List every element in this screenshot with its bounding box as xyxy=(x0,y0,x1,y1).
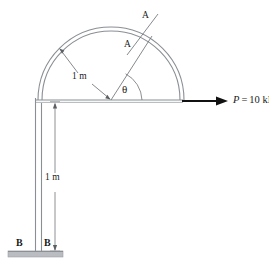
force-value: 10 kN xyxy=(249,94,269,105)
section-label-a-upper: A xyxy=(142,11,149,21)
arch-diagram: A A 1 m θ 1 m B B P=10 kN xyxy=(0,0,269,269)
force-label: P=10 kN xyxy=(233,95,269,106)
base-support-plate xyxy=(8,251,63,257)
column-dim-arrowhead-top xyxy=(53,103,57,109)
force-equals: = xyxy=(241,94,247,105)
arch-inner-edge xyxy=(42,31,180,100)
theta-angle-label: θ xyxy=(122,84,127,95)
support-label-b-right: B xyxy=(44,238,51,248)
diagram-canvas xyxy=(0,0,269,269)
column-dim-arrowhead-bottom xyxy=(53,245,57,251)
theta-angle-arc xyxy=(126,74,142,100)
arch-outer-edge xyxy=(38,27,184,100)
force-arrow-head xyxy=(216,97,228,106)
force-symbol: P xyxy=(233,94,239,105)
section-radial-line xyxy=(111,36,152,100)
column-dimension-label: 1 m xyxy=(45,173,60,183)
section-label-a-lower: A xyxy=(124,40,131,50)
support-label-b-left: B xyxy=(16,238,23,248)
radius-dimension-label: 1 m xyxy=(72,72,87,82)
